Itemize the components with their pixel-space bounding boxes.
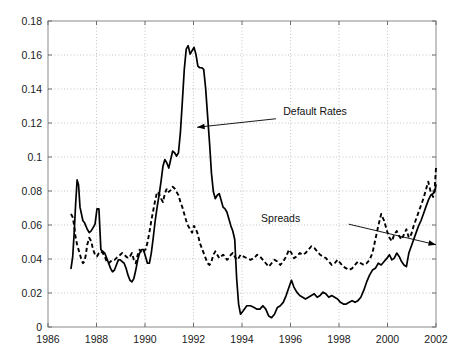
- series-line-spreads: [71, 168, 436, 270]
- annotation-label-spreads: Spreads: [261, 212, 300, 224]
- annotation-arrowhead: [197, 124, 205, 129]
- y-tick-label: 0.08: [22, 185, 43, 197]
- line-chart: 00.020.040.060.080.10.120.140.160.18 198…: [0, 0, 470, 363]
- annotation-label-default-rates: Default Rates: [283, 105, 347, 117]
- y-tick-label: 0.06: [22, 219, 43, 231]
- x-tick-label: 2000: [376, 333, 400, 345]
- x-tick-label: 1998: [327, 333, 351, 345]
- annotation-arrowhead: [428, 240, 436, 245]
- y-tick-label: 0.14: [22, 83, 43, 95]
- chart-figure: 00.020.040.060.080.10.120.140.160.18 198…: [0, 0, 470, 363]
- x-tick-label: 2002: [424, 333, 448, 345]
- annotation-leader-line: [349, 224, 436, 245]
- series-line-default-rates: [71, 46, 436, 318]
- x-tick-label: 1986: [36, 333, 60, 345]
- gridlines-group: [48, 21, 436, 327]
- x-tick-label: 1988: [85, 333, 109, 345]
- x-axis-tick-labels: 198619881990199219941996199820002002: [36, 333, 448, 345]
- y-tick-label: 0.12: [22, 117, 43, 129]
- x-tick-label: 1996: [279, 333, 303, 345]
- y-tick-label: 0.16: [22, 49, 43, 61]
- x-tick-label: 1992: [182, 333, 206, 345]
- y-tick-label: 0.18: [22, 15, 43, 27]
- x-tick-label: 1990: [133, 333, 157, 345]
- data-series-group: [71, 46, 436, 318]
- annotations-group: Default RatesSpreads: [197, 105, 436, 245]
- y-tick-label: 0.02: [22, 287, 43, 299]
- y-tick-label: 0.1: [27, 151, 42, 163]
- y-tick-label: 0.04: [22, 253, 43, 265]
- y-tick-label: 0: [36, 321, 42, 333]
- y-axis-tick-labels: 00.020.040.060.080.10.120.140.160.18: [22, 15, 43, 333]
- x-tick-label: 1994: [230, 333, 254, 345]
